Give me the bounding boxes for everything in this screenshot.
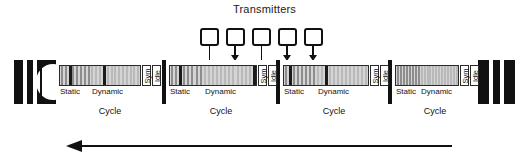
slot-active [325, 66, 328, 85]
dynamic-segment-label: Dynamic [421, 87, 452, 96]
slot-dynamic [237, 66, 239, 85]
slot-static [400, 66, 402, 85]
slot-dynamic [317, 66, 319, 85]
cycle-cell: SymIdleStaticDynamic [390, 60, 480, 104]
slot-dynamic [216, 66, 218, 85]
symbol-window-label: Sym [370, 68, 379, 83]
slot-dynamic [341, 66, 343, 85]
symbol-window-segment: Sym [460, 65, 469, 86]
slot-static [415, 66, 417, 85]
slot-static [72, 66, 74, 85]
idle-segment: Idle [380, 65, 389, 86]
slot-static [76, 66, 78, 85]
slot-dynamic [99, 66, 101, 85]
slot-dynamic [438, 66, 440, 85]
slot-static [301, 66, 303, 85]
slot-dynamic [357, 66, 359, 85]
cycle-cell: SymIdleStaticDynamic [56, 60, 164, 104]
slot-dynamic [245, 66, 247, 85]
cycle-cell: SymIdleStaticDynamic [164, 60, 278, 104]
symbol-window-label: Sym [258, 68, 267, 83]
slot-dynamic [126, 66, 128, 85]
slot-dynamic [95, 66, 97, 85]
dynamic-segment-label: Dynamic [205, 87, 236, 96]
slot-static [397, 66, 399, 85]
slot-static [61, 66, 63, 85]
slot-dynamic [107, 66, 109, 85]
slot-dynamic [249, 66, 251, 85]
static-dynamic-slot-bar [169, 65, 257, 86]
dynamic-segment-label: Dynamic [92, 87, 123, 96]
slot-static [418, 66, 420, 85]
static-segment-label: Static [284, 87, 304, 96]
static-segment-label: Static [170, 87, 190, 96]
slot-dynamic [447, 66, 449, 85]
symbol-window-label: Sym [142, 68, 151, 83]
transmitter-arrow-stem [312, 46, 314, 55]
slot-active [179, 66, 182, 85]
transmitter-box[interactable] [200, 28, 219, 46]
slot-dynamic [220, 66, 222, 85]
transmitter-box[interactable] [278, 28, 297, 46]
transmitter-tick-stem [261, 46, 262, 60]
slot-dynamic [111, 66, 113, 85]
slot-static [191, 66, 193, 85]
slot-active [289, 66, 292, 85]
endcap-stripe [489, 60, 493, 104]
slot-dynamic [212, 66, 214, 85]
slot-static [409, 66, 411, 85]
slot-dynamic [133, 66, 135, 85]
slot-static [412, 66, 414, 85]
slot-static [88, 66, 90, 85]
static-dynamic-slot-bar [395, 65, 459, 86]
idle-segment: Idle [470, 65, 479, 86]
slot-dynamic [204, 66, 206, 85]
slot-dynamic [333, 66, 335, 85]
slot-dynamic [232, 66, 234, 85]
segment-labels: StaticDynamic [59, 87, 141, 100]
slot-dynamic [208, 66, 210, 85]
transmitter-box[interactable] [304, 28, 323, 46]
slot-static [285, 66, 287, 85]
slot-static [406, 66, 408, 85]
idle-segment-label: Idle [470, 69, 479, 81]
slot-dynamic [424, 66, 426, 85]
cycle-cell: SymIdleStaticDynamic [278, 60, 390, 104]
slot-active [103, 66, 106, 85]
static-segment-label: Static [60, 87, 80, 96]
slot-dynamic [337, 66, 339, 85]
symbol-window-segment: Sym [370, 65, 379, 86]
slot-static [403, 66, 405, 85]
transmitter-box[interactable] [226, 28, 245, 46]
slot-static [187, 66, 189, 85]
slot-static [175, 66, 177, 85]
slot-dynamic [345, 66, 347, 85]
symbol-window-segment: Sym [142, 65, 151, 86]
idle-segment-label: Idle [268, 69, 277, 81]
transmitter-box[interactable] [252, 28, 271, 46]
static-dynamic-slot-bar [59, 65, 141, 86]
slot-static [183, 66, 185, 85]
direction-arrow-line [80, 145, 452, 147]
cycle-caption: Cycle [164, 106, 278, 116]
slot-dynamic [435, 66, 437, 85]
slot-dynamic [450, 66, 452, 85]
idle-segment: Idle [152, 65, 161, 86]
cycle-caption: Cycle [56, 106, 164, 116]
slot-static [297, 66, 299, 85]
idle-segment-label: Idle [152, 69, 161, 81]
timeline-start-endcap [14, 60, 56, 104]
endcap-stripe [40, 60, 42, 104]
slot-dynamic [456, 66, 458, 85]
slot-static [196, 66, 198, 85]
segment-labels: StaticDynamic [283, 87, 369, 100]
slot-dynamic [361, 66, 363, 85]
idle-segment: Idle [268, 65, 277, 86]
segment-labels: StaticDynamic [395, 87, 459, 100]
slot-dynamic [122, 66, 124, 85]
slot-static [313, 66, 315, 85]
flexray-cycle-diagram: Transmitters SymIdleStaticDynamicCycleSy… [0, 0, 529, 163]
diagram-title: Transmitters [0, 3, 529, 15]
slot-static [293, 66, 295, 85]
segment-labels: StaticDynamic [169, 87, 257, 100]
